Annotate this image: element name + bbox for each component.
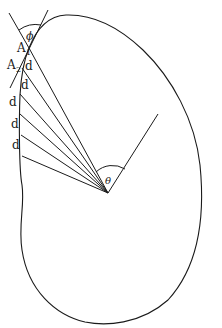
a2-subscript: 2 xyxy=(16,65,21,74)
theta-arc xyxy=(96,165,125,172)
segment-label-3: d xyxy=(9,95,17,109)
segment-label-4: d xyxy=(11,117,19,131)
a1-subscript: 1 xyxy=(26,48,31,57)
radial-line-4 xyxy=(20,114,108,193)
closed-curve xyxy=(19,15,201,324)
segment-label-1: d xyxy=(25,59,33,73)
theta-reference-ray xyxy=(108,114,158,193)
segment-label-5: d xyxy=(12,138,20,152)
theta-label: θ xyxy=(105,175,111,186)
segment-label-2: d xyxy=(21,78,29,92)
radial-lines xyxy=(20,48,108,193)
diagram-canvas: ϕ θ A 1 A 2 d d d d d xyxy=(0,0,222,328)
a2-label: A xyxy=(6,58,16,72)
phi-label: ϕ xyxy=(26,30,34,43)
a1-label: A xyxy=(16,41,26,55)
